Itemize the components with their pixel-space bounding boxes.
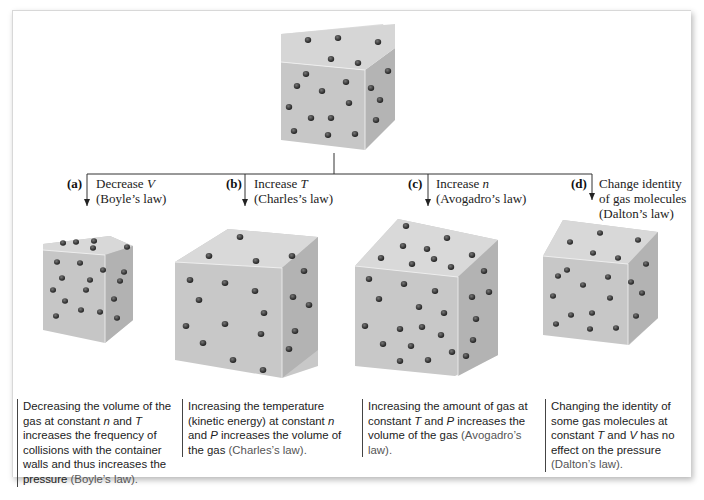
branch-a-tag: (a) xyxy=(67,176,82,192)
branch-a-law: (Boyle’s law) xyxy=(96,191,166,206)
branch-a-change: Decrease xyxy=(96,176,147,191)
variable-symbol: P xyxy=(447,415,455,427)
branch-c-tag: (c) xyxy=(408,176,422,192)
branch-d-description: Changing the identity of some gas molecu… xyxy=(545,399,701,472)
branch-c-label: Increase n (Avogadro’s law) xyxy=(436,176,526,206)
top-cube xyxy=(281,24,395,150)
branch-b-tag: (b) xyxy=(226,176,242,192)
cube-d-change-identity xyxy=(543,220,658,345)
law-name: (Dalton’s law). xyxy=(551,458,623,470)
branch-b-label: Increase T (Charles’s law) xyxy=(254,176,333,206)
branch-d-tag: (d) xyxy=(571,176,587,192)
branch-c-law: (Avogadro’s law) xyxy=(436,191,526,206)
branch-b-description: Increasing the temperature (kinetic ener… xyxy=(182,399,348,457)
branch-b-variable: T xyxy=(301,176,308,191)
branch-d-change: Change identity of gas molecules xyxy=(599,176,686,206)
cube-a-decrease-volume xyxy=(43,236,133,343)
branch-b-law: (Charles’s law) xyxy=(254,191,333,206)
law-name: (Charles’s law). xyxy=(229,444,307,456)
branch-c-description: Increasing the amount of gas at constant… xyxy=(362,399,528,457)
branch-d-label: Change identity of gas molecules (Dalton… xyxy=(599,176,691,221)
branch-d-law: (Dalton’s law) xyxy=(599,206,674,221)
branch-a-label: Decrease V (Boyle’s law) xyxy=(96,176,166,206)
cube-b-increase-temperature xyxy=(175,229,318,378)
branch-c-variable: n xyxy=(483,176,490,191)
branch-c-change: Increase xyxy=(436,176,483,191)
branch-a-variable: V xyxy=(147,176,155,191)
law-name: (Boyle’s law). xyxy=(70,473,138,485)
variable-symbol: P xyxy=(210,429,218,441)
branch-a-description: Decreasing the volume of the gas at cons… xyxy=(17,399,181,487)
variable-symbol: V xyxy=(630,429,638,441)
description-text: Decreasing the volume of the gas at cons… xyxy=(23,400,171,427)
variable-symbol: T xyxy=(135,415,142,427)
cube-c-increase-amount xyxy=(355,219,498,376)
description-text: and xyxy=(188,429,210,441)
description-text: Increasing the temperature (kinetic ener… xyxy=(188,400,328,427)
variable-symbol: n xyxy=(328,415,334,427)
description-text: and xyxy=(421,415,446,427)
branch-b-change: Increase xyxy=(254,176,301,191)
description-text: and xyxy=(604,429,629,441)
description-text: and xyxy=(110,415,135,427)
